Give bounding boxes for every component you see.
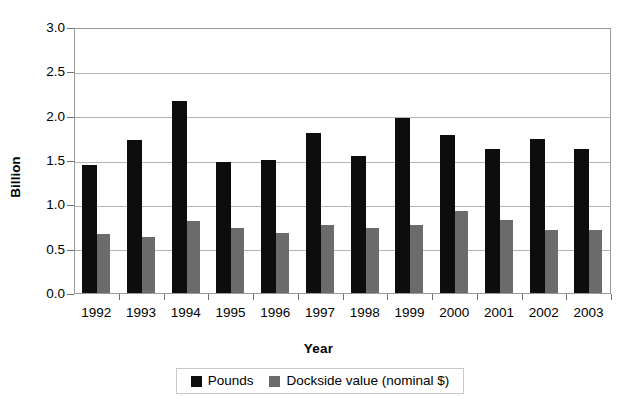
bar-pounds [395,118,410,293]
legend-swatch-pounds [191,376,202,387]
y-axis-tick [67,250,74,251]
bar-dockside-value [589,230,602,293]
bar-dockside-value [321,225,334,293]
x-axis-tick [387,294,388,300]
bar-dockside-value [455,211,468,293]
plot-area [74,28,611,294]
chart-legend: Pounds Dockside value (nominal $) [176,368,464,394]
bar-group [75,29,120,293]
bar-group [209,29,254,293]
y-axis-title: Billion [8,132,23,222]
bar-dockside-value [231,228,244,293]
y-axis-label: 3.0 [23,21,65,35]
x-axis-tick [298,294,299,300]
bar-pounds [485,149,500,293]
bar-pounds [127,140,142,293]
bar-group [478,29,523,293]
bar-group [388,29,433,293]
y-axis-tick [67,294,74,295]
legend-item-dockside-value: Dockside value (nominal $) [269,374,449,388]
legend-label-dockside-value: Dockside value (nominal $) [286,374,449,388]
bar-pounds [216,162,231,293]
bar-pounds [172,101,187,293]
x-axis-tick [522,294,523,300]
bar-pounds [261,160,276,293]
bar-dockside-value [276,233,289,293]
y-axis-label: 1.0 [23,198,65,212]
bar-dockside-value [97,234,110,293]
bar-group [523,29,568,293]
legend-item-pounds: Pounds [191,374,254,388]
bar-dockside-value [187,221,200,293]
bar-group [344,29,389,293]
x-axis-tick [253,294,254,300]
bar-group [299,29,344,293]
bar-group [433,29,478,293]
x-axis-tick [343,294,344,300]
bar-pounds [82,165,97,293]
bar-chart: Billion Year Pounds Dockside value (nomi… [0,0,637,415]
x-axis-tick [432,294,433,300]
bar-dockside-value [500,220,513,293]
x-axis-tick [611,294,612,300]
bar-pounds [574,149,589,293]
bar-group [254,29,299,293]
bar-pounds [306,133,321,293]
y-axis-tick [67,161,74,162]
x-axis-tick [477,294,478,300]
y-axis-label: 0.0 [23,287,65,301]
y-axis-label: 2.5 [23,65,65,79]
x-axis-tick [208,294,209,300]
bar-group [120,29,165,293]
bar-dockside-value [142,237,155,293]
bar-dockside-value [545,230,558,293]
bar-dockside-value [366,228,379,293]
y-axis-tick [67,117,74,118]
bar-dockside-value [410,225,423,293]
x-axis-tick [566,294,567,300]
bar-pounds [351,156,366,293]
bar-pounds [530,139,545,293]
bar-group [165,29,210,293]
bar-group [567,29,612,293]
y-axis-label: 2.0 [23,110,65,124]
y-axis-tick [67,28,74,29]
x-axis-tick [164,294,165,300]
y-axis-tick [67,205,74,206]
x-axis-label: 2003 [559,305,619,320]
y-axis-label: 0.5 [23,243,65,257]
y-axis-label: 1.5 [23,154,65,168]
legend-label-pounds: Pounds [208,374,254,388]
bar-pounds [440,135,455,293]
x-axis-tick [119,294,120,300]
y-axis-tick [67,72,74,73]
legend-swatch-dockside-value [269,376,280,387]
x-axis-title: Year [0,341,637,356]
